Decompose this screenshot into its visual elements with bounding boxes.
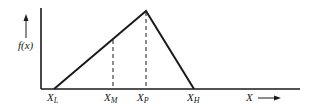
triangle-density-curve [54, 11, 194, 89]
triangular-distribution-diagram: f(x) XL XM XP XH X [0, 0, 315, 108]
x-axis-label: X [245, 91, 254, 103]
y-axis-label: f(x) [18, 39, 34, 52]
right-arrow-icon [258, 96, 281, 101]
xm-label: XM [103, 91, 119, 105]
xl-label: XL [46, 91, 59, 105]
up-arrow-icon [24, 14, 29, 38]
xp-label: XP [136, 91, 149, 105]
xh-label: XH [186, 91, 201, 105]
